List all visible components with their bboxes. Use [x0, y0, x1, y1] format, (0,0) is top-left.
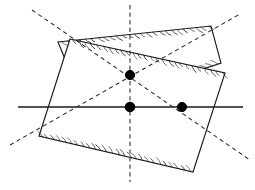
- geometry-svg: [0, 0, 255, 190]
- node-center: [125, 102, 135, 112]
- diagram-canvas: [0, 0, 255, 190]
- node-upper: [125, 70, 134, 79]
- node-right: [177, 102, 186, 111]
